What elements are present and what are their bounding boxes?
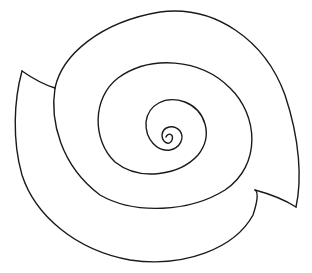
right-cap (255, 190, 296, 207)
spiral-diagram (0, 0, 312, 273)
inner-spiral (54, 63, 252, 209)
spiral-drawing (0, 0, 312, 273)
left-cap (22, 71, 55, 88)
outer-shell (15, 71, 257, 262)
outer-arc-top (55, 11, 299, 207)
